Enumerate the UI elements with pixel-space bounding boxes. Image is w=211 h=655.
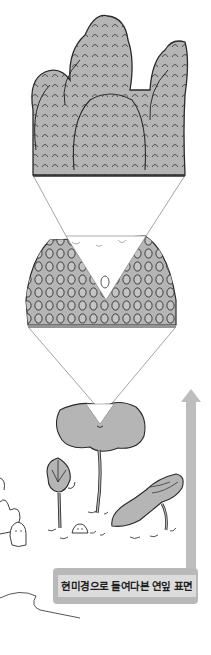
leaf-surface-block (26, 236, 176, 327)
magnification-lines-lower (29, 328, 175, 408)
figure-caption: 현미경으로 들여다본 연잎 표면 (58, 575, 196, 597)
magnification-lines-upper (34, 177, 184, 236)
up-arrow-icon (181, 389, 201, 573)
microscopic-surface-bumps (32, 15, 188, 176)
lotus-illustration (0, 0, 211, 655)
